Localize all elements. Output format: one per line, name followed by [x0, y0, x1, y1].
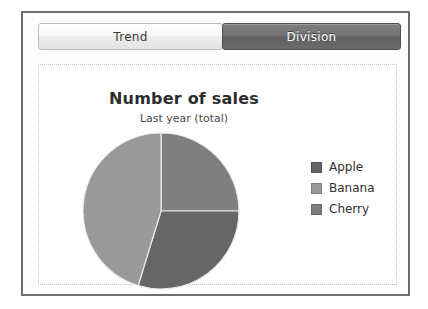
- legend-label-apple: Apple: [329, 160, 363, 174]
- pie-chart-svg: [82, 132, 240, 290]
- legend-item-apple[interactable]: Apple: [311, 158, 395, 176]
- tab-bar: Trend Division: [38, 23, 401, 50]
- legend-item-cherry[interactable]: Cherry: [311, 200, 395, 218]
- tab-trend-label: Trend: [113, 30, 147, 44]
- pie-slice-cherry[interactable]: [161, 133, 239, 211]
- tab-division[interactable]: Division: [222, 23, 401, 50]
- chart-title: Number of sales: [39, 89, 329, 108]
- tab-division-label: Division: [287, 30, 337, 44]
- legend-label-banana: Banana: [329, 181, 375, 195]
- app-window: Trend Division Number of sales Last year…: [21, 11, 410, 296]
- legend-swatch-banana: [311, 183, 322, 194]
- tab-trend[interactable]: Trend: [38, 23, 223, 50]
- legend-item-banana[interactable]: Banana: [311, 179, 395, 197]
- chart-panel: Number of sales Last year (total) AppleB…: [38, 64, 397, 285]
- pie-chart: [82, 132, 240, 290]
- pie-slice-group: [83, 133, 239, 289]
- chart-legend: AppleBananaCherry: [311, 158, 395, 221]
- legend-swatch-apple: [311, 162, 322, 173]
- chart-subtitle: Last year (total): [39, 112, 329, 125]
- legend-swatch-cherry: [311, 204, 322, 215]
- legend-label-cherry: Cherry: [329, 202, 369, 216]
